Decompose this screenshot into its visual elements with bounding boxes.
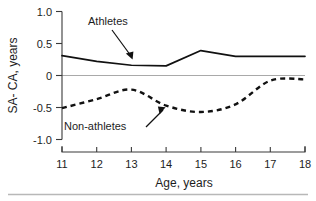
- line-chart-canvas: 1.0 0.5 0 -0.5 -1.0 SA- CA, years 11 12 …: [0, 0, 316, 201]
- y-tick-label-3: -0.5: [33, 102, 52, 114]
- y-axis-title: SA- CA, years: [6, 37, 20, 113]
- annotation-arrow-athletes: [112, 30, 131, 56]
- x-axis-title: Age, years: [155, 176, 212, 190]
- annotation-label-athletes: Athletes: [88, 15, 128, 27]
- y-tick-label-4: -1.0: [33, 134, 52, 146]
- x-axis-line: [62, 146, 305, 152]
- x-tick-label-7: 18: [299, 158, 311, 170]
- x-tick-label-2: 13: [125, 158, 137, 170]
- series-line-non-athletes: [62, 78, 305, 112]
- annotation-arrowhead-non-athletes: [158, 107, 166, 115]
- x-tick-label-5: 16: [229, 158, 241, 170]
- x-tick-label-0: 11: [56, 158, 67, 170]
- x-tick-label-4: 15: [195, 158, 207, 170]
- annotation-label-non-athletes: Non-athletes: [64, 120, 127, 132]
- y-tick-label-1: 0.5: [37, 38, 52, 50]
- x-tick-label-1: 12: [91, 158, 103, 170]
- series-line-athletes: [62, 51, 305, 66]
- x-tick-label-6: 17: [264, 158, 276, 170]
- y-tick-label-2: 0: [46, 70, 52, 82]
- chart-figure: 1.0 0.5 0 -0.5 -1.0 SA- CA, years 11 12 …: [0, 0, 316, 201]
- x-tick-label-3: 14: [160, 158, 172, 170]
- y-tick-label-0: 1.0: [37, 6, 52, 18]
- annotation-arrowhead-athletes: [126, 52, 134, 60]
